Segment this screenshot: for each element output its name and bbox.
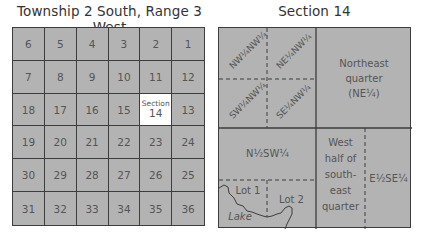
section-cell: 30 [13,159,45,192]
section-cell: 7 [13,61,45,94]
section-cell: 31 [13,192,45,225]
section-cell: 9 [77,61,109,94]
section-cell-highlighted: Section14 [140,94,172,127]
township-grid: 65432178910111218171615Section1413192021… [12,27,205,226]
west-half-se-label: West half of south- east quarter [316,135,365,215]
n-half-sw-quarter-label: N½SW¼ [219,147,316,160]
section-cell: 22 [109,126,141,159]
section-number: 14 [149,108,162,119]
ne-line1: Northeast [316,56,412,71]
section-cell: 35 [140,192,172,225]
section-cell: 29 [45,159,77,192]
ne-line3: (NE¼) [316,86,412,101]
section-cell: 6 [13,28,45,61]
whse-line3: south- [316,167,365,183]
section-cell: 26 [140,159,172,192]
section-cell: 11 [140,61,172,94]
section-cell: 4 [77,28,109,61]
lot-2-label: Lot 2 [269,193,314,206]
section-cell: 10 [109,61,141,94]
section-cell: 5 [45,28,77,61]
e-half-se-quarter-label: E½SE¼ [365,172,412,185]
section-cell: 25 [172,159,204,192]
section-cell: 21 [77,126,109,159]
whse-line5: quarter [316,199,365,215]
section-cell: 1 [172,28,204,61]
whse-line1: West [316,135,365,151]
section-cell: 19 [13,126,45,159]
section-cell: 2 [140,28,172,61]
section-cell: 16 [77,94,109,127]
section-cell: 32 [45,192,77,225]
section-cell: 33 [77,192,109,225]
ne-line2: quarter [316,71,412,86]
section-cell: 17 [45,94,77,127]
northeast-quarter-label: Northeast quarter (NE¼) [316,56,412,101]
section-cell: 12 [172,61,204,94]
lake-label: Lake [225,210,255,223]
section-cell: 8 [45,61,77,94]
whse-line2: half of [316,151,365,167]
section-title: Section 14 [218,3,411,19]
whse-line4: east [316,183,365,199]
section-cell: 36 [172,192,204,225]
section-cell: 24 [172,126,204,159]
section-cell: 13 [172,94,204,127]
section-cell: 20 [45,126,77,159]
section-cell: 28 [77,159,109,192]
section-cell: 27 [109,159,141,192]
section-14-map: NW¼NW¼ NE¼NW¼ SW¼NW¼ SE¼NW¼ Northeast qu… [218,27,411,228]
section-cell: 18 [13,94,45,127]
section-cell: 23 [140,126,172,159]
section-cell: 3 [109,28,141,61]
section-cell: 15 [109,94,141,127]
lot-1-label: Lot 1 [233,184,263,197]
section-cell: 34 [109,192,141,225]
